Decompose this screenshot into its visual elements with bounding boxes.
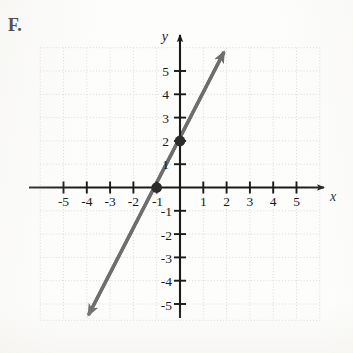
y-tick-label: -1 <box>161 204 172 219</box>
x-tick-label: 5 <box>293 194 300 209</box>
figure-container: F. <box>0 0 353 353</box>
x-tick-label: -4 <box>81 194 92 209</box>
y-tick-label: -4 <box>161 274 172 289</box>
point-y-intercept <box>175 136 186 147</box>
x-tick-label: 4 <box>270 194 277 209</box>
x-tick-label: 1 <box>200 194 207 209</box>
y-tick-label: 2 <box>162 134 169 149</box>
x-tick-label: -5 <box>58 194 69 209</box>
x-axis-label: x <box>329 189 337 204</box>
point-x-intercept <box>151 182 162 193</box>
coordinate-plane: -5 -4 -3 -2 -1 1 2 3 4 5 5 4 3 2 1 -1 -2… <box>0 0 353 353</box>
y-tick-label: -5 <box>161 298 172 313</box>
y-axis-label: y <box>160 29 169 44</box>
y-tick-label: 4 <box>162 87 169 102</box>
x-tick-label: 3 <box>247 194 254 209</box>
x-tick-label: -3 <box>104 194 115 209</box>
x-tick-label: 2 <box>223 194 230 209</box>
x-tick-label: -2 <box>128 194 139 209</box>
y-tick-label: 5 <box>162 64 169 79</box>
y-tick-label: 1 <box>162 157 169 172</box>
y-tick-label: 3 <box>162 111 169 126</box>
y-tick-label: -3 <box>161 251 172 266</box>
y-tick-label: -2 <box>161 228 172 243</box>
axes <box>29 35 324 318</box>
